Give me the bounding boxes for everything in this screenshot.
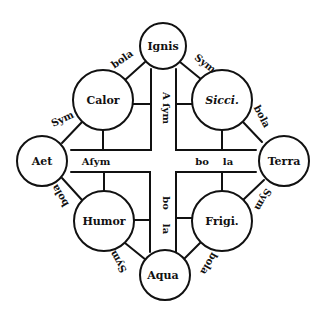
cross-label-vertical-bottom-2: la <box>161 224 172 235</box>
nodes: Ignis Calor Sicci. Aet Terra Humor <box>17 23 309 300</box>
cross-label-horizontal-left: Aſym <box>81 156 111 167</box>
edge-label-ignis-calor: bola <box>109 47 135 70</box>
edge-ignis-calor <box>125 62 145 80</box>
node-label-calor: Calor <box>86 94 119 107</box>
edge-label-humor-aqua: Sym <box>107 248 129 274</box>
edge-label-calor-aer: Sym <box>49 109 75 129</box>
node-humor: Humor <box>74 191 134 251</box>
elements-diagram: Ignis Calor Sicci. Aet Terra Humor <box>0 0 324 319</box>
node-aqua: Aqua <box>140 250 190 300</box>
cross-label-vertical-bottom-1: bo <box>161 196 172 210</box>
edge-humor-aqua <box>125 243 146 260</box>
edge-label-sicci-terra: bola <box>252 103 273 130</box>
node-ignis: Ignis <box>140 23 186 69</box>
cross-label-vertical-top: A ſym <box>161 91 172 124</box>
node-label-sicci: Sicci. <box>205 94 239 107</box>
node-label-humor: Humor <box>82 215 125 228</box>
node-terra: Terra <box>259 136 309 186</box>
diagram-svg: Ignis Calor Sicci. Aet Terra Humor <box>0 0 324 319</box>
node-label-ignis: Ignis <box>147 40 178 53</box>
cross-label-horizontal-right-2: la <box>223 156 234 167</box>
node-sicci: Sicci. <box>192 70 252 130</box>
node-calor: Calor <box>73 70 133 130</box>
edge-label-aer-humor: bola <box>49 182 71 209</box>
node-aer: Aet <box>17 136 67 186</box>
edge-label-frigi-aqua: bola <box>198 251 220 278</box>
node-label-frigi: Frigi. <box>205 215 238 228</box>
edge-label-terra-frigi: Sym <box>252 187 274 213</box>
edge-frigi-aqua <box>183 243 200 260</box>
node-frigi: Frigi. <box>192 191 252 251</box>
edge-calor-aer <box>62 122 82 143</box>
node-label-aqua: Aqua <box>146 269 178 282</box>
node-label-aer: Aet <box>31 155 54 168</box>
edge-sicci-terra <box>243 122 262 142</box>
node-label-terra: Terra <box>268 155 301 168</box>
cross-label-horizontal-right-1: bo <box>195 156 209 167</box>
